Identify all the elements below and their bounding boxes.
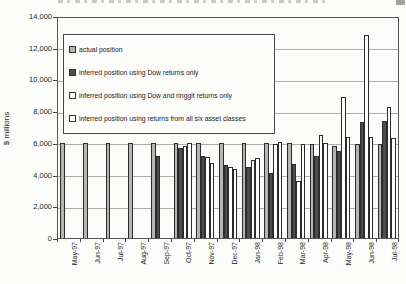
page-number-artifact <box>396 0 405 5</box>
legend-item-all-six: inferred position using returns from all… <box>69 115 269 123</box>
y-tick-label: 14,000 <box>4 13 52 21</box>
x-tick <box>398 239 399 242</box>
legend-label-all-six: inferred position using returns from all… <box>79 115 246 123</box>
bar-white <box>210 163 215 238</box>
x-tick <box>125 239 126 242</box>
x-tick-label: Jul-98 <box>391 242 398 261</box>
bar-white <box>233 169 238 238</box>
x-tick-label: Oct-97 <box>185 242 192 263</box>
scanned-chart-page: $ millions actual position inferred posi… <box>0 0 406 284</box>
x-tick <box>171 239 172 242</box>
y-tick-label: 8,000 <box>4 108 52 116</box>
bar-gray <box>106 143 111 238</box>
x-tick <box>376 239 377 242</box>
legend-swatch-white2-icon <box>69 115 76 122</box>
x-tick <box>103 239 104 242</box>
x-tick <box>194 239 195 242</box>
y-tick-label: 2,000 <box>4 203 52 211</box>
y-tick-label: 12,000 <box>4 45 52 53</box>
bar-gray <box>83 143 88 238</box>
bar-white <box>301 144 306 238</box>
x-tick <box>148 239 149 242</box>
x-tick <box>239 239 240 242</box>
bar-white <box>369 137 374 238</box>
x-tick <box>285 239 286 242</box>
y-tick <box>53 112 57 113</box>
legend-item-dow-ringgit: inferred position using Dow and ringgit … <box>69 92 269 100</box>
x-tick-label: Jun-98 <box>368 242 375 263</box>
y-tick <box>53 17 57 18</box>
bar-gray <box>60 143 65 238</box>
bar-group-jun-98 <box>353 18 376 238</box>
bar-group-mar-98 <box>285 18 308 238</box>
bar-white <box>323 143 328 238</box>
x-tick-label: Nov-97 <box>208 242 215 265</box>
x-tick-label: Aug-97 <box>140 242 147 265</box>
x-tick-label: Jun-97 <box>94 242 101 263</box>
legend-swatch-dark-icon <box>69 69 76 76</box>
x-tick <box>57 239 58 242</box>
y-tick-label: 10,000 <box>4 76 52 84</box>
x-tick-label: Dec-97 <box>231 242 238 265</box>
legend: actual position inferred position using … <box>63 34 275 134</box>
y-tick-label: 0 <box>4 235 52 243</box>
bar-dark <box>156 156 161 238</box>
bar-gray <box>128 143 133 238</box>
clipped-caption-artifact <box>58 0 328 3</box>
bar-white <box>278 142 283 238</box>
y-tick-label: 4,000 <box>4 172 52 180</box>
x-tick <box>217 239 218 242</box>
x-tick-label: Sep-97 <box>163 242 170 265</box>
x-tick-label: May-97 <box>71 242 78 265</box>
bar-group-may-98 <box>330 18 353 238</box>
bar-white <box>346 137 351 238</box>
bar-white <box>391 138 396 238</box>
bar-white <box>255 158 260 238</box>
x-tick-label: May-98 <box>345 242 352 265</box>
legend-label-dow-only: inferred position using Dow returns only <box>79 69 198 77</box>
y-tick <box>53 176 57 177</box>
y-tick-label: 6,000 <box>4 140 52 148</box>
y-tick <box>53 49 57 50</box>
bar-white <box>187 143 192 238</box>
y-tick <box>53 80 57 81</box>
legend-item-actual: actual position <box>69 46 269 54</box>
legend-item-dow-only: inferred position using Dow returns only <box>69 69 269 77</box>
x-tick-label: Feb-98 <box>277 242 284 264</box>
x-tick <box>80 239 81 242</box>
x-tick <box>331 239 332 242</box>
x-tick <box>308 239 309 242</box>
x-tick-label: Mar-98 <box>299 242 306 264</box>
x-tick-label: Jul-97 <box>117 242 124 261</box>
bar-group-jul-98 <box>375 18 398 238</box>
x-tick-label: Apr-98 <box>322 242 329 263</box>
bar-group-apr-98 <box>307 18 330 238</box>
y-tick <box>53 144 57 145</box>
x-tick <box>353 239 354 242</box>
x-tick-label: Jan-98 <box>254 242 261 263</box>
legend-swatch-gray-icon <box>69 46 76 53</box>
legend-label-actual: actual position <box>79 46 122 54</box>
x-tick <box>262 239 263 242</box>
legend-label-dow-ringgit: inferred position using Dow and ringgit … <box>79 92 232 100</box>
legend-swatch-white-icon <box>69 92 76 99</box>
y-tick <box>53 207 57 208</box>
